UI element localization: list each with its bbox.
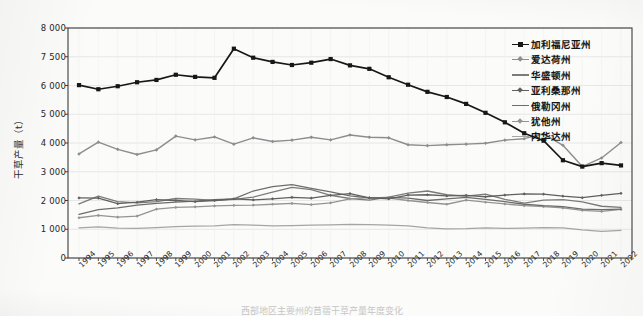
data-point: [116, 84, 120, 88]
legend-label: 犹他州: [531, 114, 561, 128]
data-point: [154, 78, 158, 82]
legend-item-2[interactable]: 华盛顿州: [512, 67, 571, 83]
y-tick-6000: 6 000: [41, 81, 66, 91]
legend-marker-icon: [512, 85, 529, 96]
legend-label: 爱达荷州: [531, 52, 571, 66]
data-point: [464, 102, 468, 106]
data-point: [329, 57, 333, 61]
legend-label: 俄勒冈州: [531, 99, 571, 113]
data-point: [561, 158, 565, 162]
figure-caption: 西部地区主要州的苜蓿干草产量年度变化: [0, 304, 643, 316]
data-point: [135, 80, 139, 84]
data-point: [619, 163, 623, 167]
legend-item-1[interactable]: 爱达荷州: [512, 51, 571, 67]
y-tick-0: 0: [60, 253, 66, 263]
legend-label: 亚利桑那州: [531, 83, 581, 97]
legend-item-0[interactable]: 加利福尼亚州: [512, 36, 591, 52]
y-tick-7500: 7 500: [41, 52, 66, 62]
legend-item-4[interactable]: 俄勒冈州: [512, 98, 571, 114]
y-tick-8000: 8 000: [41, 23, 66, 33]
data-point: [445, 95, 449, 99]
data-point: [309, 61, 313, 65]
legend-item-6[interactable]: 内华达州: [512, 128, 571, 144]
legend-item-5[interactable]: 犹他州: [512, 113, 561, 129]
legend-marker-icon: [512, 116, 529, 127]
data-point: [193, 75, 197, 79]
y-tick-5000: 5 000: [41, 109, 66, 119]
y-axis-tick-labels: 01 0002 0003 0004 0005 0006 0007 5008 00…: [18, 0, 66, 316]
data-point: [406, 83, 410, 87]
data-point: [580, 164, 584, 168]
data-point: [483, 111, 487, 115]
data-point: [96, 87, 100, 91]
legend-label: 加利福尼亚州: [531, 37, 591, 51]
chart-figure: 干草产量（t） 01 0002 0003 0004 0005 0006 0007…: [0, 0, 643, 316]
data-point: [387, 75, 391, 79]
data-point: [348, 63, 352, 67]
data-point: [425, 90, 429, 94]
legend-label: 华盛顿州: [531, 68, 571, 82]
legend-marker-icon: [512, 131, 529, 142]
y-tick-1000: 1 000: [41, 224, 66, 234]
legend-item-3[interactable]: 亚利桑那州: [512, 82, 581, 98]
data-point: [212, 76, 216, 80]
y-tick-3000: 3 000: [41, 167, 66, 177]
legend-marker-icon: [512, 100, 529, 111]
y-tick-2000: 2 000: [41, 196, 66, 206]
data-point: [232, 47, 236, 51]
data-point: [174, 73, 178, 77]
data-point: [251, 56, 255, 60]
y-tick-4000: 4 000: [41, 138, 66, 148]
data-point: [270, 60, 274, 64]
data-point: [290, 63, 294, 67]
legend-marker-icon: [512, 39, 529, 50]
data-point: [503, 120, 507, 124]
legend-marker-icon: [512, 54, 529, 65]
data-point: [367, 67, 371, 71]
legend-marker-icon: [512, 69, 529, 80]
legend-label: 内华达州: [531, 129, 571, 143]
data-point: [77, 83, 81, 87]
data-point: [600, 161, 604, 165]
